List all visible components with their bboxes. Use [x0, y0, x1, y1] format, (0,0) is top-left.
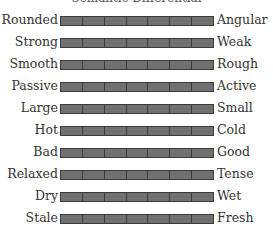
rating-cell-6[interactable]: [170, 215, 192, 223]
left-adjective: Dry: [35, 189, 58, 203]
right-adjective: Fresh: [217, 211, 254, 225]
rating-cell-1[interactable]: [61, 171, 83, 179]
rating-bar: [60, 38, 214, 48]
rating-cell-7[interactable]: [192, 193, 213, 201]
rating-cell-1[interactable]: [61, 215, 83, 223]
rating-bar: [60, 214, 214, 224]
rating-cell-3[interactable]: [105, 149, 127, 157]
rating-bar: [60, 148, 214, 158]
rating-cell-3[interactable]: [105, 193, 127, 201]
rating-cell-6[interactable]: [170, 149, 192, 157]
rating-cell-3[interactable]: [105, 215, 127, 223]
scale-row: Stale Fresh: [0, 213, 273, 235]
rating-cell-2[interactable]: [83, 83, 105, 91]
semantic-scale-list: Rounded Angular Strong Weak Smooth Rough…: [0, 15, 273, 235]
rating-cell-3[interactable]: [105, 61, 127, 69]
rating-cell-6[interactable]: [170, 61, 192, 69]
rating-cell-6[interactable]: [170, 39, 192, 47]
rating-cell-4[interactable]: [127, 171, 149, 179]
rating-cell-4[interactable]: [127, 149, 149, 157]
rating-cell-5[interactable]: [148, 149, 170, 157]
rating-cell-4[interactable]: [127, 193, 149, 201]
rating-cell-7[interactable]: [192, 149, 213, 157]
right-adjective: Tense: [217, 167, 254, 181]
rating-cell-6[interactable]: [170, 127, 192, 135]
rating-cell-2[interactable]: [83, 149, 105, 157]
rating-bar: [60, 104, 214, 114]
rating-cell-5[interactable]: [148, 83, 170, 91]
rating-cell-1[interactable]: [61, 83, 83, 91]
right-adjective: Good: [217, 145, 250, 159]
left-adjective: Large: [21, 101, 58, 115]
left-adjective: Rounded: [2, 13, 58, 27]
rating-cell-2[interactable]: [83, 61, 105, 69]
rating-cell-7[interactable]: [192, 39, 213, 47]
rating-cell-4[interactable]: [127, 127, 149, 135]
rating-cell-3[interactable]: [105, 39, 127, 47]
rating-cell-4[interactable]: [127, 61, 149, 69]
rating-cell-1[interactable]: [61, 193, 83, 201]
rating-cell-1[interactable]: [61, 61, 83, 69]
rating-cell-2[interactable]: [83, 193, 105, 201]
rating-cell-6[interactable]: [170, 17, 192, 25]
rating-cell-5[interactable]: [148, 17, 170, 25]
rating-cell-1[interactable]: [61, 127, 83, 135]
rating-bar: [60, 82, 214, 92]
rating-cell-4[interactable]: [127, 215, 149, 223]
rating-cell-3[interactable]: [105, 17, 127, 25]
rating-cell-6[interactable]: [170, 83, 192, 91]
rating-cell-6[interactable]: [170, 105, 192, 113]
rating-cell-5[interactable]: [148, 171, 170, 179]
rating-cell-7[interactable]: [192, 215, 213, 223]
rating-cell-1[interactable]: [61, 105, 83, 113]
rating-cell-4[interactable]: [127, 17, 149, 25]
rating-cell-2[interactable]: [83, 171, 105, 179]
rating-cell-2[interactable]: [83, 17, 105, 25]
rating-bar: [60, 192, 214, 202]
left-adjective: Bad: [33, 145, 58, 159]
left-adjective: Strong: [15, 35, 58, 49]
rating-cell-5[interactable]: [148, 39, 170, 47]
rating-cell-6[interactable]: [170, 193, 192, 201]
right-adjective: Small: [217, 101, 253, 115]
rating-cell-3[interactable]: [105, 127, 127, 135]
rating-cell-2[interactable]: [83, 105, 105, 113]
rating-cell-1[interactable]: [61, 17, 83, 25]
rating-cell-4[interactable]: [127, 39, 149, 47]
left-adjective: Stale: [26, 211, 58, 225]
left-adjective: Passive: [11, 79, 58, 93]
rating-cell-4[interactable]: [127, 105, 149, 113]
rating-bar: [60, 126, 214, 136]
rating-cell-3[interactable]: [105, 171, 127, 179]
rating-cell-4[interactable]: [127, 83, 149, 91]
rating-cell-5[interactable]: [148, 215, 170, 223]
rating-cell-5[interactable]: [148, 193, 170, 201]
rating-cell-7[interactable]: [192, 17, 213, 25]
right-adjective: Active: [217, 79, 257, 93]
rating-cell-7[interactable]: [192, 83, 213, 91]
rating-cell-2[interactable]: [83, 215, 105, 223]
rating-bar: [60, 60, 214, 70]
left-adjective: Smooth: [9, 57, 58, 71]
diagram-title: Semantic Differential: [0, 0, 273, 5]
rating-cell-7[interactable]: [192, 105, 213, 113]
rating-cell-3[interactable]: [105, 83, 127, 91]
rating-cell-1[interactable]: [61, 39, 83, 47]
rating-cell-5[interactable]: [148, 105, 170, 113]
rating-cell-1[interactable]: [61, 149, 83, 157]
left-adjective: Hot: [35, 123, 58, 137]
rating-cell-5[interactable]: [148, 61, 170, 69]
right-adjective: Rough: [217, 57, 258, 71]
rating-cell-3[interactable]: [105, 105, 127, 113]
right-adjective: Weak: [217, 35, 251, 49]
right-adjective: Cold: [217, 123, 246, 137]
rating-cell-7[interactable]: [192, 171, 213, 179]
rating-cell-7[interactable]: [192, 61, 213, 69]
rating-cell-7[interactable]: [192, 127, 213, 135]
rating-bar: [60, 170, 214, 180]
rating-cell-6[interactable]: [170, 171, 192, 179]
left-adjective: Relaxed: [7, 167, 58, 181]
rating-cell-2[interactable]: [83, 39, 105, 47]
rating-cell-2[interactable]: [83, 127, 105, 135]
rating-cell-5[interactable]: [148, 127, 170, 135]
